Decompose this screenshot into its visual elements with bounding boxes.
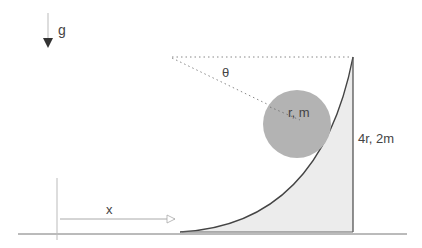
displacement-label: x [106, 202, 113, 217]
angle-label: θ [222, 65, 229, 80]
block-label: 4r, 2m [358, 131, 394, 146]
ball-label: r, m [288, 105, 310, 120]
gravity-label: g [58, 22, 66, 38]
ball [263, 90, 331, 158]
gravity-arrow [43, 13, 53, 48]
physics-diagram: g θ r, m 4r, 2m x [0, 0, 422, 248]
